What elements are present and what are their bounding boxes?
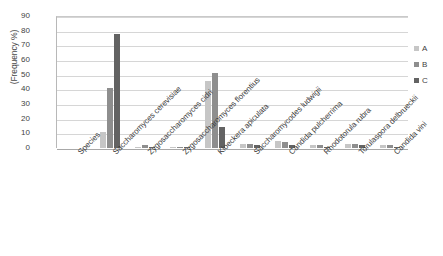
legend-swatch-icon — [414, 62, 419, 67]
bar-b[interactable] — [352, 144, 358, 148]
bar-b[interactable] — [107, 88, 113, 148]
y-axis-tick-label: 40 — [4, 85, 30, 93]
bar-c[interactable] — [114, 34, 120, 148]
bar-a[interactable] — [275, 141, 281, 148]
bar-b[interactable] — [282, 142, 288, 148]
y-axis-tick-label: 80 — [4, 27, 30, 35]
legend-swatch-icon — [414, 46, 419, 51]
legend-label: C — [422, 76, 428, 85]
bar-a[interactable] — [135, 147, 141, 148]
bar-group — [92, 17, 127, 148]
bar-group — [57, 17, 92, 148]
legend-item-c[interactable]: C — [414, 72, 443, 88]
bar-a[interactable] — [240, 144, 246, 148]
y-axis-tick-label: 0 — [4, 144, 30, 152]
bar-a[interactable] — [310, 145, 316, 148]
y-axis-tick-label: 60 — [4, 56, 30, 64]
y-axis-tick-label: 70 — [4, 41, 30, 49]
y-axis-tick-label: 20 — [4, 115, 30, 123]
legend: ABC — [414, 40, 443, 88]
legend-label: A — [422, 44, 427, 53]
legend-swatch-icon — [414, 78, 419, 83]
legend-label: B — [422, 60, 427, 69]
bar-a[interactable] — [345, 144, 351, 148]
bar-b[interactable] — [247, 144, 253, 148]
bar-a[interactable] — [380, 145, 386, 148]
x-axis-tick-labels: SpeciesSaccharomyces cerevisiaeZygosacch… — [56, 150, 408, 250]
bar-b[interactable] — [212, 73, 218, 148]
y-axis-tick-label: 50 — [4, 71, 30, 79]
legend-item-a[interactable]: A — [414, 40, 443, 56]
y-axis-tick-label: 90 — [4, 12, 30, 20]
bar-chart: (Frequency %) 9080706050403020100 Specie… — [0, 0, 443, 256]
y-axis-tick-label: 30 — [4, 100, 30, 108]
bar-b[interactable] — [317, 145, 323, 148]
bar-a[interactable] — [170, 147, 176, 148]
y-axis-tick-label: 10 — [4, 129, 30, 137]
legend-item-b[interactable]: B — [414, 56, 443, 72]
